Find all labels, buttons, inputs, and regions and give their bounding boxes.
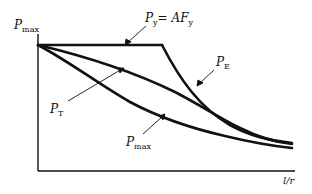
column-strength-diagram xyxy=(0,0,312,194)
yield-curve-label: Py= AFy xyxy=(145,12,193,27)
tangent-leader-line xyxy=(68,69,122,101)
x-axis-label: l/r xyxy=(283,176,294,186)
max-curve-label: Pmax xyxy=(126,136,151,151)
tangent-curve-label: PT xyxy=(50,103,63,118)
euler-curve-label: PE xyxy=(216,56,230,71)
euler-leader-line xyxy=(200,70,214,83)
y-axis-label: Pmax xyxy=(14,19,39,34)
tangent-modulus-curve xyxy=(38,45,292,144)
max-leader-line xyxy=(143,116,163,134)
yield-leader-line xyxy=(127,26,146,43)
